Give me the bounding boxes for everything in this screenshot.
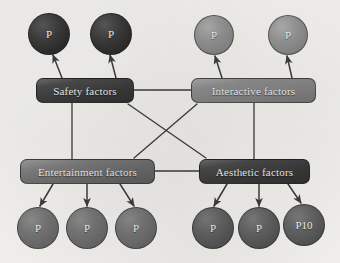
edge-safety-p1 xyxy=(53,55,62,78)
indicator-circle-label: P xyxy=(210,222,216,234)
indicator-circle-p8[interactable]: P xyxy=(192,207,234,249)
indicator-circle-p6[interactable]: P xyxy=(66,207,108,249)
indicator-circle-p5[interactable]: P xyxy=(17,207,59,249)
factor-box-label: Aesthetic factors xyxy=(216,166,294,178)
edge-safety-aesthetic xyxy=(128,104,206,158)
factor-box-label: Entertainment factors xyxy=(38,166,137,178)
indicator-circle-p3[interactable]: P xyxy=(194,15,234,55)
indicator-circle-p10[interactable]: P10 xyxy=(283,204,325,246)
indicator-circle-label: P xyxy=(84,222,90,234)
edge-interactive-p3 xyxy=(215,56,222,78)
indicator-circle-p7[interactable]: P xyxy=(115,207,157,249)
factor-box-safety[interactable]: Safety factors xyxy=(36,78,134,103)
edge-safety-p2 xyxy=(110,55,116,78)
indicator-circle-label: P xyxy=(211,29,217,41)
indicator-circle-label: P10 xyxy=(295,219,312,231)
factor-box-label: Interactive factors xyxy=(212,85,296,97)
indicator-circle-label: P xyxy=(285,29,291,41)
indicator-circle-label: P xyxy=(46,28,52,40)
edge-interactive-entertainment xyxy=(134,104,197,158)
factor-box-interactive[interactable]: Interactive factors xyxy=(191,78,316,103)
indicator-circle-p4[interactable]: P xyxy=(268,15,308,55)
factor-box-aesthetic[interactable]: Aesthetic factors xyxy=(199,159,310,184)
indicator-circle-p1[interactable]: P xyxy=(28,13,70,55)
edge-entertainment-p7 xyxy=(120,184,134,206)
indicator-circle-label: P xyxy=(256,222,262,234)
factor-box-label: Safety factors xyxy=(53,85,117,97)
edge-entertainment-p5 xyxy=(40,184,53,206)
edge-aesthetic-p8 xyxy=(214,184,227,206)
edge-aesthetic-p10 xyxy=(288,184,301,203)
indicator-circle-label: P xyxy=(133,222,139,234)
diagram-canvas: Safety factorsInteractive factorsEnterta… xyxy=(0,0,340,263)
edge-interactive-p4 xyxy=(287,56,292,78)
indicator-circle-p9[interactable]: P xyxy=(238,207,280,249)
indicator-circle-label: P xyxy=(35,222,41,234)
indicator-circle-p2[interactable]: P xyxy=(90,13,132,55)
indicator-circle-label: P xyxy=(108,28,114,40)
factor-box-entertainment[interactable]: Entertainment factors xyxy=(20,159,155,184)
